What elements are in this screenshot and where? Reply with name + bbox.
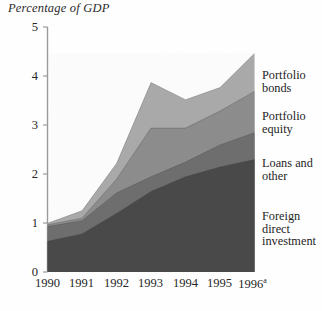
x-tick-1996-footnote: a [263,276,267,285]
y-tick-4: 4 [12,69,38,84]
series-label-loans-and-other: Loans and other [262,157,313,182]
series-label-foreign-direct-investment: Foreign direct investment [262,210,316,248]
area-bands [48,53,255,272]
series-label-portfolio-bonds: Portfolio bonds [262,69,306,94]
series-label-portfolio-equity: Portfolio equity [262,110,306,135]
x-tick-1996: 1996a [232,276,273,292]
series-label-loans-and-other-line2: other [262,169,287,183]
series-label-fdi-line3: investment [262,234,316,248]
series-label-portfolio-bonds-line2: bonds [262,81,291,95]
y-tick-5: 5 [12,20,38,35]
y-tick-3: 3 [12,118,38,133]
y-tick-1: 1 [12,216,38,231]
chart-figure: Percentage of GDP [0,0,322,311]
series-label-portfolio-equity-line2: equity [262,122,293,136]
y-tick-2: 2 [12,167,38,182]
x-tick-1996-text: 1996 [238,277,263,291]
